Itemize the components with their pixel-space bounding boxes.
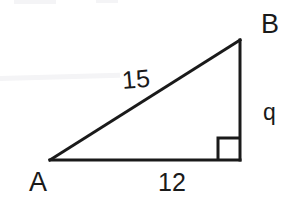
side-label-base: 12 [158, 170, 186, 195]
vertex-label-b: B [261, 11, 279, 38]
right-angle-marker-icon [218, 138, 240, 160]
side-label-hypotenuse: 15 [121, 66, 151, 93]
vertex-label-a: A [29, 169, 47, 196]
triangle-figure: B q 15 12 A [0, 0, 298, 207]
side-label-vertical: q [263, 101, 276, 124]
hypotenuse-line [50, 40, 240, 160]
